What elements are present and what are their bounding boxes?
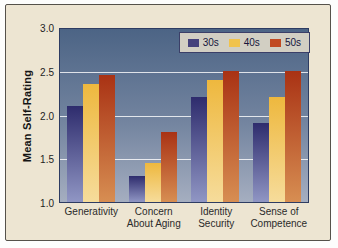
legend-swatch-50s — [270, 39, 281, 47]
legend-item: 50s — [270, 37, 301, 48]
legend-item: 30s — [188, 37, 219, 48]
legend-label: 50s — [285, 37, 301, 48]
category-label: Generativity — [60, 206, 123, 230]
legend-label: 40s — [244, 37, 260, 48]
legend-label: 30s — [203, 37, 219, 48]
legend: 30s40s50s — [179, 32, 310, 53]
y-tick-label: 3.0 — [30, 23, 60, 34]
legend-item: 40s — [229, 37, 260, 48]
y-axis-ticks: 3.02.52.01.51.0 — [60, 29, 308, 202]
chart-plot-area: 3.02.52.01.51.0 Mean Self-Rating 30s40s5… — [59, 28, 309, 203]
legend-swatch-40s — [229, 39, 240, 47]
y-tick-label: 1.0 — [30, 198, 60, 209]
y-axis-title: Mean Self-Rating — [21, 69, 33, 161]
legend-swatch-30s — [188, 39, 199, 47]
category-label: Identity Security — [185, 206, 248, 230]
category-label: Sense of Competence — [248, 206, 311, 230]
category-label: Concern About Aging — [123, 206, 186, 230]
x-axis-labels: GenerativityConcern About AgingIdentity … — [60, 206, 310, 230]
figure-panel: 3.02.52.01.51.0 Mean Self-Rating 30s40s5… — [5, 4, 331, 241]
y-tick-label: 2.5 — [30, 67, 60, 78]
y-tick-label: 1.5 — [30, 154, 60, 165]
y-tick-label: 2.0 — [30, 111, 60, 122]
